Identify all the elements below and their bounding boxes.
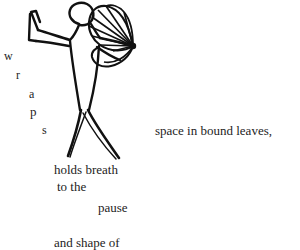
poem-line-space: space in bound leaves,	[155, 124, 272, 137]
wraps-letter-w: w	[4, 50, 13, 62]
wraps-letter-s: s	[42, 124, 47, 136]
figure-torso-left	[70, 41, 80, 110]
poem-line-and-shape: and shape of	[54, 236, 120, 249]
wraps-letter-r: r	[16, 69, 20, 81]
figure-head	[69, 3, 93, 25]
figure-legs	[68, 110, 119, 159]
poem-line-pause: pause	[98, 201, 128, 214]
figure-raised-arm	[29, 11, 70, 46]
poem-line-to-the: to the	[57, 180, 86, 193]
figure-neck-right	[91, 24, 100, 38]
figure-torso-right	[89, 46, 99, 110]
wraps-letter-p: p	[30, 105, 37, 118]
wraps-letter-a: a	[29, 88, 34, 100]
figure-neck-left	[70, 25, 79, 40]
poem-line-holds: holds breath	[54, 163, 118, 176]
poem-image-canvas: w r a p s space in bound leaves, holds b…	[0, 0, 300, 250]
fan-icon	[89, 5, 136, 66]
figure-fan-arm	[97, 38, 129, 60]
